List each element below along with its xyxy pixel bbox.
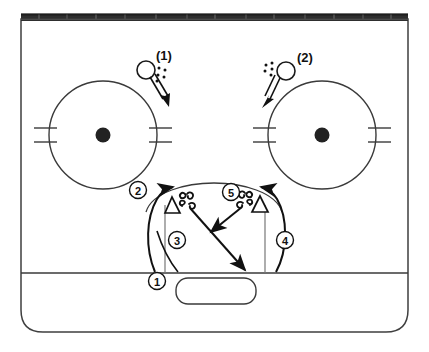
step-badge-4: 4 — [277, 232, 294, 249]
step-badge-2-label: 2 — [135, 185, 141, 197]
goal-net — [176, 278, 256, 304]
step-badge-4-label: 4 — [282, 235, 289, 247]
player-circle-1 — [137, 61, 155, 79]
step-badge-3-label: 3 — [174, 235, 180, 247]
step-badge-2: 2 — [130, 182, 147, 199]
step-badge-3: 3 — [169, 232, 186, 249]
faceoff-dot-left — [96, 128, 111, 143]
hockey-rink-diagram: (1) (2) — [0, 0, 429, 352]
faceoff-dot-right — [315, 128, 330, 143]
shooter-left-label: (1) — [156, 48, 172, 63]
shooter-right-label: (2) — [297, 50, 313, 65]
boards-bottom-edge — [21, 19, 408, 20]
step-badge-5-label: 5 — [228, 187, 234, 199]
boards-band — [21, 14, 408, 22]
player-circle-2 — [277, 62, 295, 80]
drill-diagram-canvas: (1) (2) — [0, 0, 429, 352]
step-badge-5: 5 — [223, 184, 240, 201]
step-badge-1-label: 1 — [154, 276, 160, 288]
step-badge-1: 1 — [149, 273, 166, 290]
